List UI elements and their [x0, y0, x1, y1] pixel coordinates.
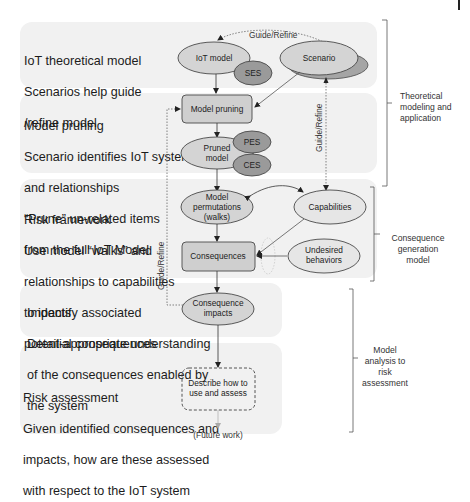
- future-work-label: (Future work): [193, 430, 243, 440]
- edge-label-guide-refine-right: Guide/Refine: [314, 103, 324, 152]
- node-model-pruning-label: Model pruning: [191, 104, 244, 114]
- node-describe-label-2: use and assess: [189, 388, 247, 398]
- node-consequence-impacts-label-2: impacts: [204, 308, 233, 318]
- node-model-permutations-label-2: permutations: [193, 202, 241, 212]
- node-undesired-behaviors-label-2: behaviors: [306, 255, 342, 265]
- node-ces-label: CES: [243, 160, 261, 170]
- node-iot-model-label: IoT model: [196, 53, 233, 63]
- node-model-permutations-label-3: (walks): [204, 212, 231, 222]
- bracket-theoretical: [382, 20, 392, 186]
- node-describe-label-1: Describe how to: [188, 378, 248, 388]
- edge-label-guide-refine-top: Guide/Refine: [249, 30, 298, 40]
- edge-label-guide-refine-left: Guide/Refine: [156, 241, 166, 290]
- bracket-label-analysis: Model analysis to risk assessment: [350, 345, 420, 389]
- bracket-label-consequence: Consequence generation model: [383, 233, 453, 266]
- node-ses-label: SES: [245, 68, 262, 78]
- band-line: with respect to the IoT system: [23, 484, 219, 500]
- node-scenario-label: Scenario: [303, 53, 336, 63]
- node-undesired-behaviors-label-1: Undesired: [305, 245, 343, 255]
- edge-permutations-capabilities: [250, 186, 303, 196]
- node-pruned-model-label-2: model: [206, 153, 229, 163]
- node-pes-label: PES: [244, 137, 261, 147]
- band-line: impacts, how are these assessed: [23, 453, 219, 469]
- node-model-permutations-label-1: Model: [206, 192, 229, 202]
- bracket-label-theoretical: Theoretical modeling and application: [400, 91, 452, 124]
- node-pruned-model-label-1: Pruned: [204, 143, 231, 153]
- node-consequence-impacts-label-1: Consequence: [192, 298, 244, 308]
- node-capabilities-label: Capabilities: [309, 202, 352, 212]
- node-consequences-label: Consequences: [190, 251, 245, 261]
- bracket-consequence: [370, 187, 380, 281]
